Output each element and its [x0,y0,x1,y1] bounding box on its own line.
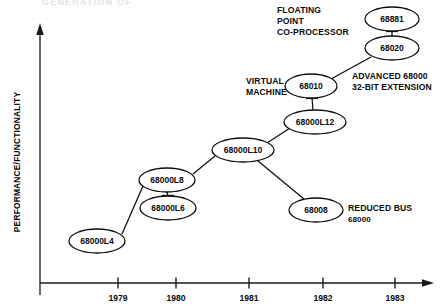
node-68010[interactable]: 68010 [285,74,337,98]
annotation-line-1: REDUCED BUS [348,203,412,213]
node-68000L10[interactable]: 68000L10 [212,138,274,162]
x-tick-label-1979: 1979 [108,293,127,303]
y-axis-arrowhead [36,23,44,35]
edge-68000L10-68000L12 [267,128,290,143]
axes-group: 1979 1980 1981 1982 1983 PERFORMANCE/FUN… [12,23,434,303]
annotation-line-3: CO-PROCESSOR [277,27,350,37]
x-tick-label-1980: 1980 [166,293,185,303]
annotation-line-2: 68000 [348,215,371,224]
node-label: 68000L8 [150,175,184,185]
annotation-advanced-68000: ADVANCED 68000 32-BIT EXTENSION [352,71,432,92]
x-tick-label-1981: 1981 [239,293,258,303]
node-label: 68020 [380,43,404,53]
node-label: 68000L6 [151,203,185,213]
node-68000L8[interactable]: 68000L8 [139,168,195,192]
node-68020[interactable]: 68020 [365,36,419,60]
node-68000L12[interactable]: 68000L12 [284,110,346,134]
processor-family-chart: 1979 1980 1981 1982 1983 PERFORMANCE/FUN… [0,0,446,306]
node-68000L6[interactable]: 68000L6 [140,196,196,220]
x-axis-arrowhead [422,279,434,287]
annotation-floating-point-coprocessor: FLOATING POINT CO-PROCESSOR [277,5,350,37]
annotation-line-2: POINT [277,16,304,26]
node-label: 68881 [380,14,404,24]
edge-68000L8-68000L10 [193,156,215,174]
annotation-reduced-bus: REDUCED BUS 68000 [348,203,412,224]
edge-68000L12-68010 [312,98,313,110]
x-tick-label-1982: 1982 [313,293,332,303]
node-label: 68008 [304,205,328,215]
node-label: 68000L12 [296,117,335,127]
annotation-line-2: 32-BIT EXTENSION [352,82,432,92]
y-axis-title: PERFORMANCE/FUNCTIONALITY [12,92,22,233]
node-label: 68000L10 [224,145,263,155]
x-tick-label-1983: 1983 [385,293,404,303]
annotation-line-1: FLOATING [277,5,321,15]
edge-68000L10-68008 [258,161,304,199]
figure-canvas: GENERATION OF 1979 1980 1981 1982 1983 [0,0,446,306]
node-68008[interactable]: 68008 [289,198,343,222]
annotation-virtual-machine: VIRTUAL MACHINE [246,76,287,97]
node-68881[interactable]: 68881 [365,7,419,31]
annotation-line-1: VIRTUAL [246,76,284,86]
annotation-line-2: MACHINE [246,87,287,97]
node-label: 68010 [299,81,323,91]
node-label: 68000L4 [80,236,114,246]
annotation-line-1: ADVANCED 68000 [352,71,428,81]
node-68000L4[interactable]: 68000L4 [69,229,125,253]
